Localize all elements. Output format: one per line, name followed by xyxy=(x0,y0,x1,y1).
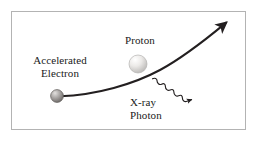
xray-photon-label: X-ray Photon xyxy=(130,96,162,121)
accelerated-electron-label: Accelerated Electron xyxy=(26,54,94,79)
accelerated-electron-label-line2: Electron xyxy=(26,67,94,80)
xray-photon-label-line1: X-ray xyxy=(130,96,162,109)
accelerated-electron-label-line1: Accelerated xyxy=(26,54,94,67)
proton-label-line1: Proton xyxy=(114,34,166,47)
proton-sphere xyxy=(129,55,147,73)
proton-label: Proton xyxy=(114,34,166,47)
xray-photon-label-line2: Photon xyxy=(130,109,162,122)
bremsstrahlung-diagram: Accelerated Electron Proton X-ray Photon xyxy=(0,0,259,142)
electron-sphere xyxy=(51,90,64,103)
